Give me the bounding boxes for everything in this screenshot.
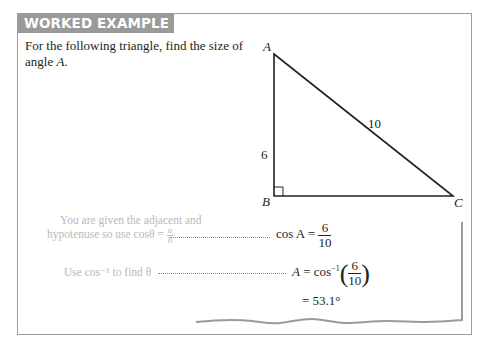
- step1-result: cos A = 610: [276, 221, 331, 250]
- side-label-ab: 6: [261, 148, 268, 162]
- final-answer: = 53.1°: [302, 294, 341, 308]
- step2-explanation: Use cos⁻¹ to find θ: [64, 266, 151, 279]
- step2-result: A = cos−1(610): [292, 259, 370, 288]
- vertex-label-b: B: [262, 195, 270, 209]
- vertex-label-c: C: [454, 196, 463, 210]
- step2-leader-dots: [158, 273, 286, 274]
- side-label-ac: 10: [368, 117, 381, 131]
- triangle-diagram: [0, 0, 487, 353]
- step1-leader-dots: [170, 237, 270, 238]
- step1-explanation-line2: hypotenuse so use cosθ = ah: [47, 226, 173, 245]
- vertex-label-a: A: [263, 40, 271, 54]
- right-angle-marker: [274, 187, 283, 196]
